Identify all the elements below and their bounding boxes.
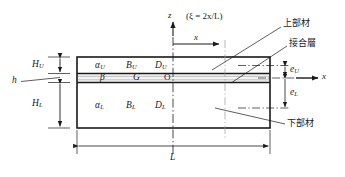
- H-upper-label: HU: [32, 60, 44, 70]
- bond-beta-label: β: [100, 73, 105, 83]
- H-lower-symbol: H: [32, 98, 39, 108]
- z-axis-label: z: [168, 11, 172, 20]
- callout-upper-member: 上部材: [283, 19, 310, 28]
- e-upper-label: eU: [290, 65, 299, 75]
- beam-cross-section-figure: z (ξ = 2x/L) x x αU BU DU β G O αL BL DL…: [0, 0, 345, 177]
- h-leader: [21, 78, 60, 82]
- length-label: L: [170, 153, 175, 163]
- bond-layer-fill: [77, 74, 270, 83]
- lower-D-label: DL: [155, 101, 166, 111]
- lower-D-symbol: D: [155, 100, 162, 110]
- upper-B-subscript: U: [132, 63, 137, 70]
- h-label: h: [12, 76, 17, 86]
- H-upper-symbol: H: [32, 59, 39, 69]
- upper-B-symbol: B: [126, 60, 132, 70]
- upper-D-label: DU: [155, 61, 167, 71]
- e-upper-subscript: U: [294, 67, 299, 74]
- H-lower-label: HL: [32, 99, 43, 109]
- e-lower-subscript: L: [294, 90, 298, 97]
- upper-D-subscript: U: [162, 63, 167, 70]
- bond-G-label: G: [133, 73, 140, 83]
- upper-D-symbol: D: [155, 60, 162, 70]
- e-lower-label: eL: [290, 88, 298, 98]
- lower-D-subscript: L: [162, 103, 166, 110]
- callout-bond-layer: 接合層: [289, 39, 316, 48]
- upper-B-label: BU: [126, 61, 137, 71]
- x-axis-right-label: x: [322, 72, 326, 81]
- upper-alpha-label: αU: [95, 61, 105, 71]
- beam-outline: [77, 57, 270, 128]
- upper-alpha-subscript: U: [100, 63, 105, 70]
- lower-member-leader: [215, 108, 285, 124]
- lower-alpha-label: αL: [95, 101, 104, 111]
- lower-alpha-subscript: L: [100, 103, 104, 110]
- lower-B-symbol: B: [126, 100, 132, 110]
- lower-B-subscript: L: [132, 103, 136, 110]
- x-axis-top-label: x: [194, 33, 198, 42]
- xi-definition-note: (ξ = 2x/L): [186, 12, 223, 21]
- lower-B-label: BL: [126, 101, 136, 111]
- L-dimension: [77, 130, 270, 154]
- member-centroid-lines: [238, 66, 290, 109]
- origin-label: O: [164, 73, 171, 82]
- H-dimensions: [48, 57, 70, 128]
- H-lower-subscript: L: [39, 101, 43, 108]
- callout-lower-member: 下部材: [287, 119, 314, 128]
- H-upper-subscript: U: [39, 62, 44, 69]
- beam-outer-rect: [77, 57, 270, 128]
- h-leader-line: [21, 78, 60, 82]
